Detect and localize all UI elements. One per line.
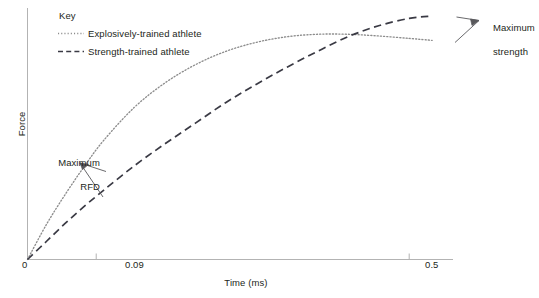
x-tick-label-2: 0.5: [425, 259, 439, 271]
legend-label-explosively-trained-athlete: Explosively-trained athlete: [88, 28, 202, 40]
chart-container: Force Time (ms) 0 0.09 0.5 Key Explosive…: [0, 0, 539, 298]
annotation-leader-strength-dotted: [455, 21, 479, 43]
legend-label-strength-trained-athlete: Strength-trained athlete: [88, 46, 190, 58]
x-tick-label-1: 0.09: [125, 259, 144, 271]
annotation-maximum-rfd-line1: Maximum: [58, 157, 100, 168]
annotation-maximum-strength: Maximum strength: [482, 10, 538, 69]
x-axis-label: Time (ms): [191, 277, 301, 289]
annotation-maximum-strength-line1: Maximum: [493, 22, 535, 33]
annotation-maximum-rfd: Maximum RFD: [38, 145, 100, 204]
y-axis-label: Force: [16, 94, 28, 154]
annotation-maximum-rfd-line2: RFD: [80, 181, 100, 192]
annotation-maximum-strength-line2: strength: [493, 46, 528, 57]
legend-title: Key: [59, 10, 76, 22]
x-tick-label-0: 0: [22, 259, 27, 271]
